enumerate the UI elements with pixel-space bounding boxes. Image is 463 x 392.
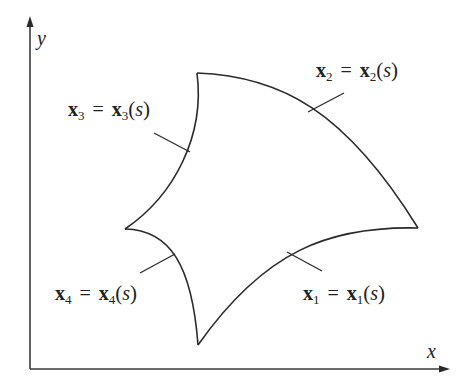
curve-x2 — [197, 73, 418, 228]
label-x3: x3=x3(s) — [68, 99, 150, 122]
leader-x4 — [140, 254, 175, 273]
label-x2: x2=x2(s) — [316, 60, 398, 83]
x-axis-label: x — [427, 340, 436, 363]
y-axis-label: y — [37, 27, 46, 50]
leader-x2 — [308, 93, 344, 112]
label-x4: x4=x4(s) — [55, 283, 137, 306]
label-x1: x1=x1(s) — [303, 283, 385, 306]
y-axis-arrow-icon — [27, 16, 34, 27]
leader-x3 — [154, 133, 190, 152]
leader-x1 — [287, 252, 322, 271]
x-axis-arrow-icon — [439, 366, 450, 373]
